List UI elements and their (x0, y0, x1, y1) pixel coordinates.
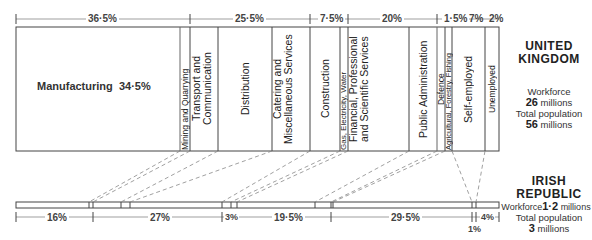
sector-financial-professional: Financial, Professional and Scientific S… (348, 28, 409, 150)
uk-population: Total population 56 millions (506, 108, 592, 130)
uk-workforce-value: 26 (526, 96, 538, 108)
sector-mining-quarrying: Mining and Quarrying (180, 28, 190, 150)
ie-population-value: 3 (529, 222, 535, 234)
sector-manufacturing-label: Manufacturing (37, 80, 113, 92)
ie-country-title: IRISH REPUBLIC (506, 175, 592, 201)
ie-pct-manufacturing-mining: 16% (45, 212, 69, 223)
sector-self-employed: Self-employed (452, 28, 485, 150)
ie-population-unit: millions (538, 223, 570, 234)
uk-pct-unemployed: 2% (487, 13, 505, 24)
ie-pct-finance-public: 19·5% (272, 212, 305, 223)
uk-pct-finance-public: 20% (380, 13, 404, 24)
sector-transport-line2: Communication (202, 53, 213, 126)
sector-agriculture-forestry-fishing: Agricultural, Forestry, Fishing (445, 28, 452, 150)
uk-population-unit: millions (541, 119, 573, 130)
sector-unemployed: Unemployed (485, 28, 499, 150)
uk-country-title: UNITED KINGDOM (506, 40, 592, 66)
ie-population-label: Total population (506, 212, 592, 223)
ie-pct-services: 27% (148, 212, 172, 223)
sector-manufacturing-value: 34·5% (119, 80, 151, 92)
ie-workforce-unit: millions (561, 202, 591, 212)
ie-population: Total population 3 millions (506, 212, 592, 234)
uk-pct-construction-utilities: 7·5% (318, 13, 345, 24)
sector-manufacturing: Manufacturing 34·5% (37, 80, 151, 92)
sector-catering-line2: Miscellaneous Services (283, 34, 294, 144)
ie-pct-self-employed: 1% (467, 224, 482, 234)
uk-title-line2: KINGDOM (506, 53, 592, 66)
sector-construction: Construction (310, 28, 340, 150)
ie-workforce-value: 1·2 (542, 200, 558, 212)
ie-pct-agriculture: 29·5% (389, 212, 422, 223)
uk-workforce-unit: millions (541, 97, 573, 108)
ie-pct-construction-utilities: 3% (224, 212, 239, 222)
uk-pct-self-employed: 7% (467, 13, 485, 24)
sector-public-administration: Public Administration (409, 28, 437, 150)
ie-workforce-label: Workforce (501, 202, 542, 212)
uk-workforce-label: Workforce (506, 86, 592, 97)
uk-pct-services: 25·5% (233, 13, 266, 24)
uk-workforce: Workforce 26 millions (506, 86, 592, 108)
sector-financial-line2: and Scientific Services (359, 36, 370, 142)
uk-population-value: 56 (526, 118, 538, 130)
uk-pct-manufacturing-mining: 36·5% (86, 13, 119, 24)
sector-catering-misc: Catering and Miscellaneous Services (272, 28, 310, 150)
uk-population-label: Total population (506, 108, 592, 119)
uk-pct-agriculture: 1·5% (442, 13, 469, 24)
ie-pct-unemployed: 4% (480, 212, 495, 222)
sector-transport-communication: Transport and Communication (191, 28, 218, 150)
sector-distribution: Distribution (218, 28, 272, 150)
